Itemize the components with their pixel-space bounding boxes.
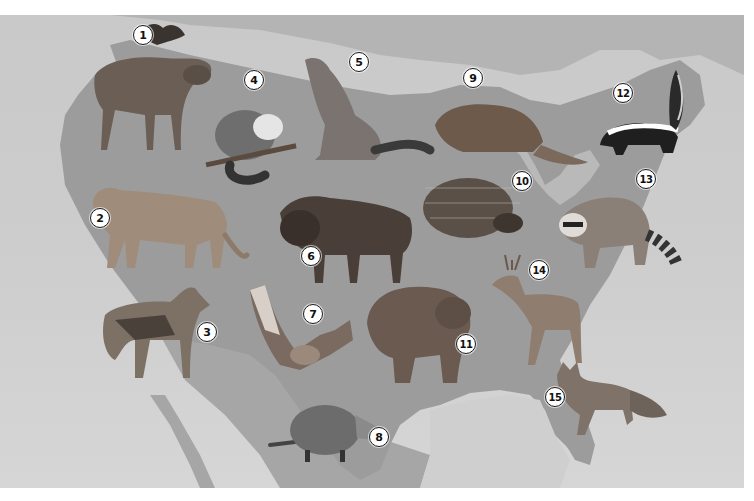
- label-6: 6: [301, 246, 321, 266]
- label-8: 8: [369, 427, 389, 447]
- label-1: 1: [133, 25, 153, 45]
- cougar-illustration: [85, 180, 250, 275]
- fox-illustration: [555, 360, 670, 440]
- label-13: 13: [636, 169, 656, 189]
- bison-illustration: [275, 193, 415, 288]
- label-2: 2: [90, 208, 110, 228]
- skunk-illustration: [598, 65, 688, 160]
- baja-peninsula: [150, 395, 215, 488]
- porcupine-illustration: [420, 168, 525, 246]
- wolf-illustration: [295, 55, 435, 170]
- label-11: 11: [456, 334, 476, 354]
- beaver-illustration: [433, 97, 593, 172]
- label-7: 7: [303, 304, 323, 324]
- label-14: 14: [529, 260, 549, 280]
- bat-illustration: [245, 285, 355, 380]
- label-9: 9: [463, 68, 483, 88]
- opossum-illustration: [200, 95, 300, 185]
- us-animal-map: 1 2 3 4 5 6 7 8 9 10 11 12 13 14 15: [0, 15, 744, 488]
- label-15: 15: [545, 387, 565, 407]
- label-12: 12: [613, 83, 633, 103]
- label-3: 3: [197, 322, 217, 342]
- label-4: 4: [244, 70, 264, 90]
- label-5: 5: [349, 52, 369, 72]
- label-10: 10: [512, 171, 532, 191]
